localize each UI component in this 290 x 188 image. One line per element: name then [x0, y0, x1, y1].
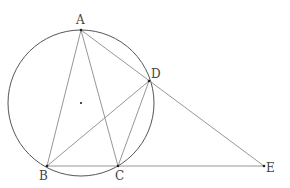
segment-ac — [81, 30, 118, 166]
segment-ab — [47, 30, 81, 166]
geometry-diagram: ABCDE — [0, 0, 290, 188]
label-c: C — [115, 169, 124, 183]
center-dot — [80, 102, 82, 104]
point-e — [263, 165, 266, 168]
diagram-svg: ABCDE — [0, 0, 290, 188]
label-d: D — [151, 67, 161, 81]
point-c — [117, 165, 120, 168]
label-b: B — [39, 169, 48, 183]
label-e: E — [266, 161, 275, 175]
point-d — [148, 80, 151, 83]
points — [46, 29, 266, 168]
segment-ae — [81, 30, 264, 166]
point-a — [80, 29, 83, 32]
point-labels: ABCDE — [39, 13, 275, 183]
point-b — [46, 165, 49, 168]
line-segments — [47, 30, 264, 166]
label-a: A — [75, 13, 85, 27]
